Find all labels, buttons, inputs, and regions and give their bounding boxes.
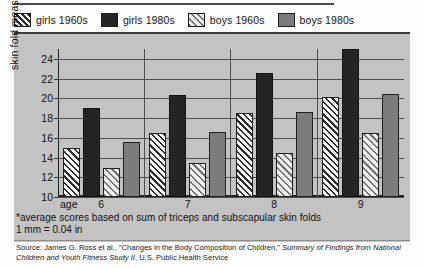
y-tick-label-10: 10: [41, 192, 53, 203]
y-tick-label-24: 24: [41, 54, 53, 65]
bar-boys-1980s-age-6: [123, 142, 140, 197]
source-suffix: , U.S. Public Health Service: [135, 253, 228, 262]
chart-page: girls 1960s girls 1980s boys 1960s boys …: [0, 0, 424, 268]
bar-boys-1960s-age-7: [189, 163, 206, 197]
bar-boys-1980s-age-8: [296, 112, 313, 197]
x-tick-label-6: 6: [58, 198, 145, 210]
source-prefix: Source: James G. Ross et al., “Changes i…: [16, 243, 282, 252]
bar-group-age-7: [145, 49, 232, 197]
bar-girls-1960s-age-7: [149, 133, 166, 197]
plot-area: 2422201816141210: [58, 49, 404, 197]
top-divider-rule: [14, 3, 334, 5]
bar-boys-1980s-age-9: [382, 94, 399, 197]
bar-boys-1960s-age-9: [362, 133, 379, 197]
bar-girls-1980s-age-6: [83, 108, 100, 197]
chart-legend: girls 1960s girls 1980s boys 1960s boys …: [14, 9, 414, 31]
legend-label-girls-1960s: girls 1960s: [36, 14, 88, 26]
bar-girls-1980s-age-7: [169, 95, 186, 197]
bar-group-age-6: [58, 49, 145, 197]
legend-label-boys-1960s: boys 1960s: [210, 14, 265, 26]
bar-group-age-8: [231, 49, 318, 197]
x-tick-label-8: 8: [231, 198, 318, 210]
y-tick-label-16: 16: [41, 133, 53, 144]
footnote-averages: *average scores based on sum of triceps …: [16, 212, 321, 223]
bar-boys-1960s-age-6: [103, 168, 120, 197]
legend-label-boys-1980s: boys 1980s: [300, 14, 355, 26]
bar-girls-1960s-age-6: [63, 148, 80, 197]
legend-swatch-icon-girls-1980s: [101, 13, 118, 27]
legend-item-girls-1960s: girls 1960s: [14, 13, 88, 27]
bar-girls-1960s-age-8: [236, 113, 253, 197]
bar-group-age-9: [318, 49, 405, 197]
x-tick-label-9: 9: [318, 198, 405, 210]
y-tick-label-20: 20: [41, 93, 53, 104]
y-tick-label-12: 12: [41, 172, 53, 183]
bar-groups: [58, 49, 404, 197]
y-tick-label-18: 18: [41, 113, 53, 124]
source-citation: Source: James G. Ross et al., “Changes i…: [16, 243, 410, 264]
y-tick-label-14: 14: [41, 152, 53, 163]
source-divider-rule: [14, 240, 410, 241]
legend-swatch-icon-boys-1980s: [278, 13, 295, 27]
chart-plate: skin fold measurement (in mm) 2422201816…: [14, 32, 410, 242]
bar-girls-1980s-age-8: [256, 73, 273, 197]
footnote-conversion: 1 mm = 0.04 in: [16, 224, 82, 235]
legend-swatch-icon-boys-1960s: [188, 13, 205, 27]
bar-girls-1960s-age-9: [322, 97, 339, 197]
x-tick-label-7: 7: [145, 198, 232, 210]
legend-item-boys-1980s: boys 1980s: [278, 13, 355, 27]
y-tick-label-22: 22: [41, 73, 53, 84]
x-axis-tick-labels: 6789: [58, 198, 404, 210]
bar-girls-1980s-age-9: [342, 49, 359, 197]
y-axis-title: skin fold measurement (in mm): [8, 0, 20, 70]
legend-label-girls-1980s: girls 1980s: [123, 14, 175, 26]
legend-item-boys-1960s: boys 1960s: [188, 13, 265, 27]
bar-boys-1980s-age-7: [209, 132, 226, 197]
bar-boys-1960s-age-8: [276, 153, 293, 197]
legend-item-girls-1980s: girls 1980s: [101, 13, 175, 27]
